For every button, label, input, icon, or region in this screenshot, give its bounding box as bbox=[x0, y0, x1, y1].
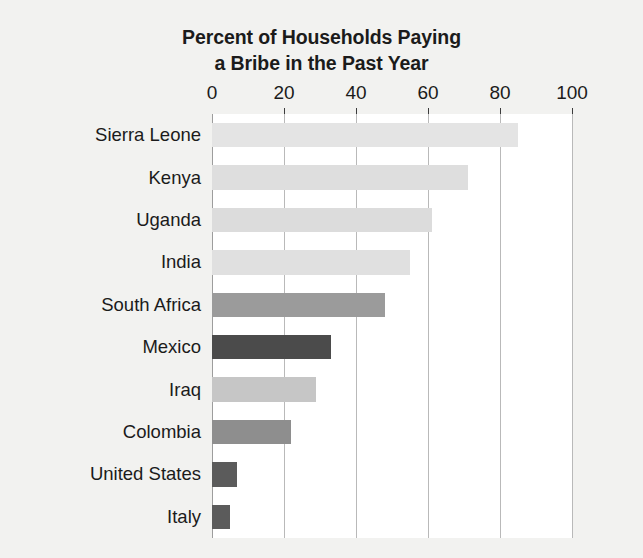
category-label-uganda: Uganda bbox=[136, 209, 201, 231]
bar-row: South Africa bbox=[212, 293, 572, 318]
bar-row: Iraq bbox=[212, 377, 572, 402]
bar-south-africa bbox=[212, 293, 385, 318]
bar-row: Uganda bbox=[212, 208, 572, 233]
bar-row: Italy bbox=[212, 505, 572, 530]
bar-row: Sierra Leone bbox=[212, 123, 572, 148]
category-label-kenya: Kenya bbox=[149, 167, 201, 189]
tick-mark-100 bbox=[572, 108, 573, 114]
x-tick-label-80: 80 bbox=[489, 82, 510, 104]
tick-mark-40 bbox=[356, 108, 357, 114]
category-label-iraq: Iraq bbox=[169, 379, 201, 401]
category-label-italy: Italy bbox=[167, 506, 201, 528]
category-label-south-africa: South Africa bbox=[101, 294, 201, 316]
category-label-colombia: Colombia bbox=[123, 421, 201, 443]
bar-mexico bbox=[212, 335, 331, 360]
tick-mark-60 bbox=[428, 108, 429, 114]
category-label-mexico: Mexico bbox=[142, 336, 201, 358]
x-tick-label-20: 20 bbox=[273, 82, 294, 104]
bar-iraq bbox=[212, 377, 316, 402]
x-tick-label-40: 40 bbox=[345, 82, 366, 104]
bar-row: Colombia bbox=[212, 420, 572, 445]
plot-area: 020406080100 Sierra LeoneKenyaUgandaIndi… bbox=[212, 114, 572, 538]
bar-row: Mexico bbox=[212, 335, 572, 360]
tick-mark-20 bbox=[284, 108, 285, 114]
bar-row: India bbox=[212, 250, 572, 275]
category-label-united-states: United States bbox=[90, 463, 201, 485]
bar-united-states bbox=[212, 462, 237, 487]
bar-uganda bbox=[212, 208, 432, 233]
chart-figure: Percent of Households Paying a Bribe in … bbox=[0, 0, 643, 558]
bar-colombia bbox=[212, 420, 291, 445]
tick-mark-80 bbox=[500, 108, 501, 114]
bar-sierra-leone bbox=[212, 123, 518, 148]
category-label-india: India bbox=[161, 251, 201, 273]
bar-india bbox=[212, 250, 410, 275]
chart-title-line-2: a Bribe in the Past Year bbox=[0, 50, 643, 76]
bar-row: Kenya bbox=[212, 165, 572, 190]
chart-title: Percent of Households Paying a Bribe in … bbox=[0, 24, 643, 77]
x-tick-label-100: 100 bbox=[556, 82, 588, 104]
gridline-100 bbox=[572, 114, 573, 538]
x-tick-label-60: 60 bbox=[417, 82, 438, 104]
bar-kenya bbox=[212, 165, 468, 190]
category-label-sierra-leone: Sierra Leone bbox=[95, 124, 201, 146]
x-tick-label-0: 0 bbox=[207, 82, 218, 104]
bar-row: United States bbox=[212, 462, 572, 487]
chart-title-line-1: Percent of Households Paying bbox=[0, 24, 643, 50]
bar-italy bbox=[212, 505, 230, 530]
